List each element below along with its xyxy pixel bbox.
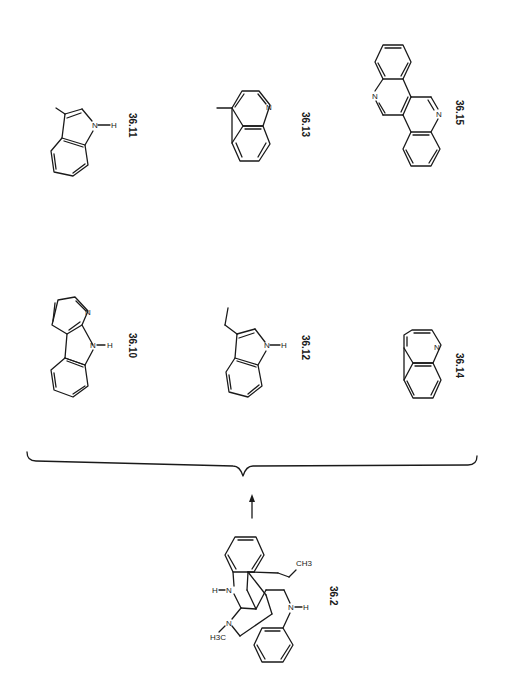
atom-n: N [264, 341, 270, 350]
compound-label: 36.15 [454, 100, 465, 125]
atom-n: N [226, 619, 232, 628]
atom-n: N [226, 586, 232, 595]
compound-36-11: N H 36.11 [51, 108, 138, 176]
atom-n: N [92, 121, 98, 130]
compound-label: 36.2 [328, 586, 339, 606]
atom-h: H [107, 341, 113, 350]
atom-n: N [90, 341, 96, 350]
compound-36-2: N H N H3C CH3 N H 36.2 [210, 537, 339, 662]
atom-n: N [372, 92, 378, 101]
compound-label: 36.12 [300, 335, 311, 360]
atom-n: N [288, 603, 294, 612]
compound-label: 36.14 [454, 353, 465, 378]
atom-h: H [212, 586, 218, 595]
atom-n: N [266, 103, 272, 112]
atom-n: N [436, 110, 442, 119]
compound-label: 36.10 [127, 333, 138, 358]
atom-n: N [85, 308, 91, 317]
atom-h: H [281, 341, 287, 350]
reaction-arrow [249, 494, 255, 518]
compound-label: 36.13 [300, 112, 311, 137]
product-brace [27, 452, 477, 476]
compound-36-15: N N 36.15 [372, 45, 465, 166]
reaction-figure: N H N H3C CH3 N H 36.2 [0, 0, 506, 688]
compound-36-13: N 36.13 [217, 91, 311, 161]
compound-36-12: N H 36.12 [225, 308, 311, 397]
compound-36-10: N N H 36.10 [51, 297, 138, 397]
atom-n: N [434, 343, 440, 352]
atom-h: H [303, 603, 309, 612]
atom-ch3: CH3 [296, 559, 313, 568]
atom-h3c: H3C [210, 633, 226, 642]
atom-h: H [111, 121, 117, 130]
compound-36-14: N 36.14 [404, 330, 465, 398]
compound-label: 36.11 [127, 113, 138, 138]
